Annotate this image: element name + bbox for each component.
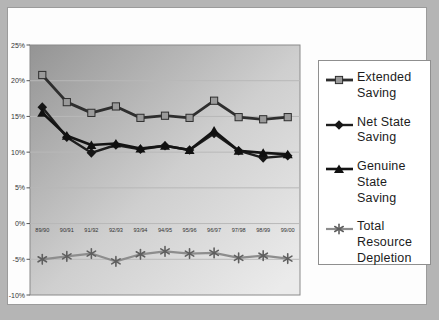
square-marker-icon xyxy=(260,116,267,123)
x-tick-label: 90/91 xyxy=(60,227,74,233)
legend-marker-diamond-icon xyxy=(325,118,355,132)
y-tick-label: 5% xyxy=(15,184,25,191)
legend-label: Extended Saving xyxy=(357,70,427,102)
legend-label: Total Resource Depletion xyxy=(357,219,427,266)
legend-item: Extended Saving xyxy=(325,70,427,102)
square-marker-icon xyxy=(137,114,144,121)
y-tick-label: 10% xyxy=(11,149,25,156)
square-marker-icon xyxy=(112,103,119,110)
x-tick-label: 99/00 xyxy=(281,227,295,233)
y-tick-label: -10% xyxy=(9,292,25,299)
x-tick-label: 97/98 xyxy=(232,227,246,233)
x-tick-label: 94/95 xyxy=(158,227,172,233)
square-marker-icon xyxy=(161,112,168,119)
square-marker-icon xyxy=(88,109,95,116)
y-tick-label: 0% xyxy=(15,220,25,227)
legend-marker-triangle-icon xyxy=(325,162,355,176)
x-tick-label: 89/90 xyxy=(35,227,49,233)
square-marker-icon xyxy=(284,114,291,121)
x-tick-label: 98/99 xyxy=(256,227,270,233)
square-marker-icon xyxy=(63,99,70,106)
y-tick-label: 15% xyxy=(11,113,25,120)
chart-legend: Extended SavingNet State SavingGenuine S… xyxy=(318,60,431,265)
x-tick-label: 91/92 xyxy=(84,227,98,233)
legend-marker-asterisk-icon xyxy=(325,222,355,236)
legend-label: Net State Saving xyxy=(357,115,427,147)
square-marker-icon xyxy=(186,114,193,121)
square-marker-icon xyxy=(235,114,242,121)
x-tick-label: 93/94 xyxy=(133,227,147,233)
y-tick-label: 20% xyxy=(11,77,25,84)
x-tick-label: 95/96 xyxy=(183,227,197,233)
y-tick-label: -5% xyxy=(13,256,25,263)
legend-label: Genuine State Saving xyxy=(357,159,427,206)
square-marker-icon xyxy=(210,97,217,104)
legend-item: Net State Saving xyxy=(325,115,427,147)
x-tick-label: 92/93 xyxy=(109,227,123,233)
legend-item: Total Resource Depletion xyxy=(325,219,427,266)
y-tick-label: 25% xyxy=(11,42,25,49)
square-marker-icon xyxy=(39,71,46,78)
legend-marker-square-icon xyxy=(325,73,355,87)
legend-item: Genuine State Saving xyxy=(325,159,427,206)
x-tick-label: 96/97 xyxy=(207,227,221,233)
figure-frame: 25%20%15%10%5%0%-5%-10%89/9090/9191/9292… xyxy=(0,0,439,320)
